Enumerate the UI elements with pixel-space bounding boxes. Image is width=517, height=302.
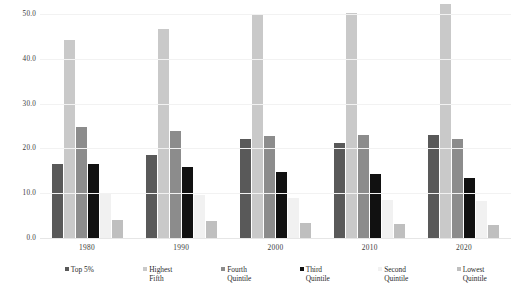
bar <box>182 167 193 238</box>
gridline <box>40 59 511 60</box>
legend-swatch-icon <box>378 267 382 271</box>
bar <box>240 139 251 238</box>
legend-label: Second Quintile <box>384 265 408 283</box>
axis-baseline <box>40 238 511 239</box>
bar <box>440 4 451 238</box>
gridline <box>40 148 511 149</box>
legend-label: Third Quintile <box>306 265 330 283</box>
bar <box>100 193 111 238</box>
bar <box>428 135 439 238</box>
legend-swatch-icon <box>300 267 304 271</box>
bar-groups <box>40 0 511 238</box>
legend-label: Top 5% <box>71 265 94 274</box>
chart-legend: Top 5%Highest FifthFourth QuintileThird … <box>40 265 511 291</box>
plot-area: 0.010.020.030.040.050.0 1980199020002010… <box>0 0 517 248</box>
y-axis: 0.010.020.030.040.050.0 <box>0 0 40 248</box>
legend-swatch-icon <box>65 267 69 271</box>
x-axis-tick-label: 1990 <box>134 238 228 254</box>
gridline <box>40 193 511 194</box>
bar <box>358 135 369 238</box>
legend-label: Fourth Quintile <box>227 265 251 283</box>
figure-caption <box>6 294 511 302</box>
bar <box>194 195 205 238</box>
legend-swatch-icon <box>221 267 225 271</box>
bar-group <box>40 0 134 238</box>
bar-group <box>323 0 417 238</box>
y-axis-tick-label: 50.0 <box>23 10 36 18</box>
bar <box>382 200 393 238</box>
legend-item[interactable]: Third Quintile <box>276 265 355 283</box>
legend-item[interactable]: Second Quintile <box>354 265 433 283</box>
bar-group <box>417 0 511 238</box>
bar <box>288 198 299 238</box>
x-axis: 19801990200020102020 <box>40 238 511 254</box>
bar <box>488 225 499 238</box>
legend-label: Highest Fifth <box>149 265 172 283</box>
legend-item[interactable]: Lowest Quintile <box>433 265 512 283</box>
bar <box>394 224 405 238</box>
y-axis-tick-label: 10.0 <box>23 189 36 197</box>
bar <box>276 172 287 238</box>
bar <box>170 131 181 238</box>
y-axis-tick-label: 20.0 <box>23 144 36 152</box>
bar <box>88 164 99 238</box>
bar-group <box>228 0 322 238</box>
bar <box>476 201 487 238</box>
bar <box>300 223 311 238</box>
bar <box>52 164 63 238</box>
bar <box>264 136 275 238</box>
bar <box>146 155 157 238</box>
bar <box>252 15 263 238</box>
bar <box>370 174 381 239</box>
gridline <box>40 104 511 105</box>
x-axis-tick-label: 2000 <box>228 238 322 254</box>
y-axis-tick-label: 30.0 <box>23 100 36 108</box>
x-axis-tick-label: 2020 <box>417 238 511 254</box>
bar <box>112 220 123 238</box>
bar <box>76 127 87 238</box>
legend-swatch-icon <box>143 267 147 271</box>
bar <box>158 29 169 238</box>
legend-item[interactable]: Top 5% <box>40 265 119 274</box>
legend-item[interactable]: Highest Fifth <box>119 265 198 283</box>
bar <box>452 139 463 238</box>
legend-swatch-icon <box>457 267 461 271</box>
x-axis-tick-label: 1980 <box>40 238 134 254</box>
gridline <box>40 14 511 15</box>
bar-group <box>134 0 228 238</box>
y-axis-tick-label: 40.0 <box>23 55 36 63</box>
y-axis-tick-label: 0.0 <box>26 234 36 242</box>
bar <box>64 40 75 238</box>
bar <box>206 221 217 238</box>
bar <box>334 143 345 238</box>
x-axis-tick-label: 2010 <box>323 238 417 254</box>
bar <box>464 178 475 238</box>
income-share-bar-chart: 0.010.020.030.040.050.0 1980199020002010… <box>0 0 517 302</box>
legend-item[interactable]: Fourth Quintile <box>197 265 276 283</box>
legend-label: Lowest Quintile <box>463 265 487 283</box>
bar <box>346 13 357 238</box>
